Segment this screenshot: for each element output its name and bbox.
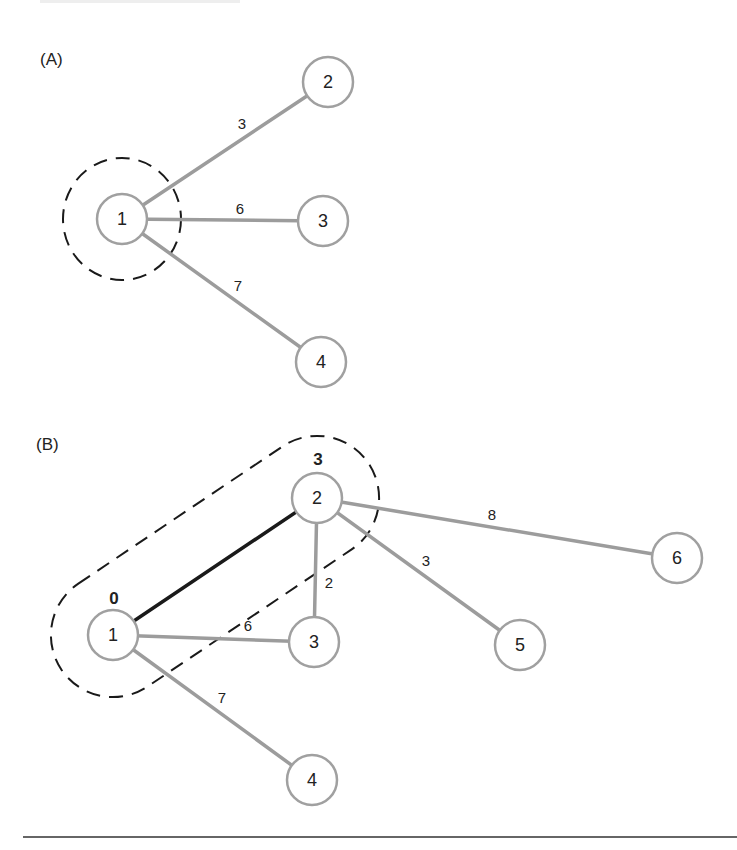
node-label: 1 [117,209,127,229]
node-a-4: 4 [296,337,346,387]
node-b-1: 1 [88,610,138,660]
node-label: 4 [307,770,317,790]
edge-weight-1-4: 7 [234,277,242,294]
edge-weight-1-2: 3 [238,115,246,132]
node-a-3: 3 [298,196,348,246]
edge-weight-2-3: 2 [325,574,333,591]
panel-b: (B) 6 7 2 3 8 0 3 1 2 3 [27,412,702,805]
edge-weight-1-4: 7 [218,689,226,706]
node-label: 2 [323,72,333,92]
node-label: 6 [672,548,682,568]
edge-weight-2-6: 8 [488,506,496,523]
distance-label-node-2: 3 [313,450,322,469]
node-a-2: 2 [303,57,353,107]
edge-2-6 [317,498,677,558]
node-label: 4 [316,352,326,372]
node-b-3: 3 [289,617,339,667]
panel-a: (A) 3 6 7 1 2 3 4 [40,50,353,387]
node-label: 5 [515,635,525,655]
node-b-5: 5 [495,620,545,670]
edge-weight-1-3: 6 [244,617,252,634]
distance-label-node-1: 0 [109,589,118,608]
graph-figure: (A) 3 6 7 1 2 3 4 (B) [0,0,737,850]
edge-1-3 [113,635,314,642]
node-label: 3 [318,211,328,231]
edge-1-2 [122,82,328,219]
panel-a-label: (A) [40,50,63,69]
node-b-2: 2 [292,473,342,523]
node-label: 3 [309,632,319,652]
edge-weight-2-5: 3 [422,552,430,569]
edge-weight-1-3: 6 [236,200,244,217]
node-a-1: 1 [97,194,147,244]
node-label: 1 [108,625,118,645]
node-b-4: 4 [287,755,337,805]
edge-1-3 [122,219,323,221]
node-label: 2 [312,488,322,508]
edge-1-4 [113,635,312,780]
edge-1-4 [122,219,321,362]
panel-b-label: (B) [36,435,59,454]
edge-1-2-highlighted [113,498,317,635]
node-b-6: 6 [652,533,702,583]
clipped-header-remnant [40,0,240,3]
